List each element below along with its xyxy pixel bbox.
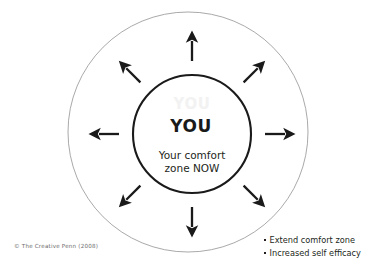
arrow-right-icon	[265, 128, 296, 140]
arrow-down-right-icon	[239, 181, 269, 211]
diagram-canvas	[0, 0, 384, 278]
arrow-up-left-icon	[114, 56, 144, 86]
comfort-zone-diagram: YOU YOU Your comfort zone NOW © The Crea…	[0, 0, 384, 278]
arrow-down-left-icon	[114, 181, 144, 211]
arrow-down-icon	[186, 207, 198, 238]
inner-circle	[133, 75, 251, 193]
arrow-up-right-icon	[239, 56, 269, 86]
arrow-up-icon	[186, 31, 198, 62]
arrow-left-icon	[89, 128, 120, 140]
